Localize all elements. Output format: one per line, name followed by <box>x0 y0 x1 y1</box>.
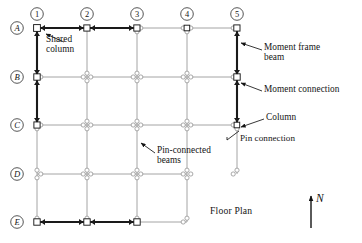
column-3-A <box>134 25 140 31</box>
grid-bubble-C: C <box>11 119 24 132</box>
grid-bubble-5: 5 <box>231 8 244 21</box>
column-1-E <box>34 219 40 225</box>
grid-label-A: A <box>13 23 20 33</box>
grid-bubble-2: 2 <box>81 8 94 21</box>
column-5-B <box>234 74 240 80</box>
column-4-A <box>184 25 190 31</box>
grid-bubbles-rows: A B C D E <box>11 22 24 229</box>
grid-bubbles-columns: 1 2 3 4 5 <box>31 8 244 21</box>
column-5-C <box>234 122 240 128</box>
grid-label-E: E <box>13 217 20 227</box>
grid-bubble-3: 3 <box>131 8 144 21</box>
pin-node-5-D <box>231 168 239 176</box>
pin-node-4-E <box>181 216 189 224</box>
grid-label-C: C <box>14 120 20 130</box>
column-1-A <box>34 25 41 32</box>
north-label: N <box>316 192 324 204</box>
grid-label-3: 3 <box>135 10 139 19</box>
grid-bubble-1: 1 <box>31 8 44 21</box>
grid-label-D: D <box>13 169 21 179</box>
annotation-moment-frame-beam: Moment frame beam <box>264 42 320 63</box>
leader-pin-connected-beams <box>141 143 155 153</box>
grid-bubble-4: 4 <box>181 8 194 21</box>
annotation-pin-connected-beams: Pin-connected beams <box>157 145 211 166</box>
grid-bubble-E: E <box>11 216 24 229</box>
annotation-pin-connection: Pin connection <box>240 133 295 143</box>
leader-moment-connection <box>241 83 262 91</box>
floor-plan-caption: Floor Plan <box>210 205 252 216</box>
grid-label-B: B <box>14 72 20 82</box>
annotation-moment-connection: Moment connection <box>264 84 339 94</box>
column-5-A <box>234 25 240 31</box>
column-3-E <box>134 219 140 225</box>
grid-bubble-A: A <box>11 22 24 35</box>
column-1-C <box>34 122 40 128</box>
grid-label-1: 1 <box>35 10 39 19</box>
annotation-shared-column: Shared column <box>46 34 74 55</box>
annotation-column: Column <box>266 112 296 122</box>
leader-column <box>241 119 264 127</box>
column-1-B <box>34 74 40 80</box>
pin-node-1-D <box>35 168 43 180</box>
column-2-A <box>84 25 90 31</box>
pin-connected-beam-grid <box>37 28 237 222</box>
leader-moment-frame-beam <box>241 43 262 50</box>
floor-plan-figure: 1 2 3 4 5 A B C D E <box>0 0 362 243</box>
grid-bubble-B: B <box>11 71 24 84</box>
grid-bubble-D: D <box>11 168 24 181</box>
column-2-E <box>84 219 90 225</box>
grid-label-2: 2 <box>85 10 89 19</box>
grid-label-5: 5 <box>235 10 239 19</box>
annotation-leaders <box>46 34 264 153</box>
